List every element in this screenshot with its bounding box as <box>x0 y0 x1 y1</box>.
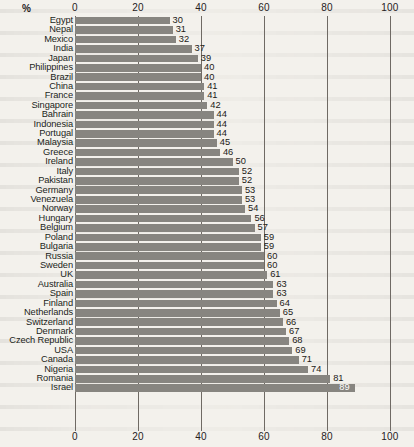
x-axis-tick-label: 20 <box>132 431 144 442</box>
x-axis-tick-label: 40 <box>195 2 207 13</box>
x-axis-bottom: 020406080100 <box>0 431 414 445</box>
bar <box>75 186 242 194</box>
bar <box>75 271 267 279</box>
bar-series: Egypt30Nepal31Mexico32India37Japan39Phil… <box>0 16 414 431</box>
bar <box>75 366 308 374</box>
bar <box>75 375 330 383</box>
bar <box>75 26 173 34</box>
bar <box>75 224 255 232</box>
x-axis-tick-label: 100 <box>381 2 398 13</box>
bar <box>75 73 201 81</box>
bar <box>75 121 214 129</box>
bar <box>75 130 214 138</box>
bar <box>75 111 214 119</box>
bar-value-label: 46 <box>223 147 233 157</box>
x-axis-tick-label: 80 <box>321 431 333 442</box>
bar <box>75 205 245 213</box>
bar <box>75 36 176 44</box>
x-axis-tick-label: 40 <box>195 431 207 442</box>
bar <box>75 83 204 91</box>
bar <box>75 328 286 336</box>
plot-area: Egypt30Nepal31Mexico32India37Japan39Phil… <box>0 16 414 431</box>
bar <box>75 309 280 317</box>
bar <box>75 318 283 326</box>
bar <box>75 158 233 166</box>
bar <box>75 102 207 110</box>
bar <box>75 92 204 100</box>
bar-category-label: Israel <box>51 382 73 392</box>
bar <box>75 347 292 355</box>
bar <box>75 64 201 72</box>
x-axis-tick-label: 80 <box>321 2 333 13</box>
x-axis-tick-label: 20 <box>132 2 144 13</box>
bar-value-label: 32 <box>179 34 189 44</box>
bar <box>75 384 355 392</box>
bar <box>75 262 264 270</box>
bar <box>75 55 198 63</box>
bar-value-label: 89 <box>339 382 349 392</box>
x-axis-tick-label: 100 <box>381 431 398 442</box>
bar-chart: % 020406080100 Egypt30Nepal31Mexico32Ind… <box>0 0 414 447</box>
x-axis-tick-label: 0 <box>72 431 78 442</box>
bar <box>75 196 242 204</box>
bar <box>75 356 299 364</box>
bar <box>75 300 277 308</box>
bar-value-label: 74 <box>311 364 321 374</box>
bar <box>75 234 261 242</box>
bar <box>75 149 220 157</box>
bar <box>75 45 192 53</box>
bar <box>75 168 239 176</box>
bar <box>75 281 273 289</box>
bar <box>75 139 217 147</box>
bar <box>75 177 239 185</box>
bar-row: Israel89 <box>0 383 414 392</box>
x-axis-top: 020406080100 <box>0 2 414 16</box>
bar <box>75 243 261 251</box>
bar <box>75 215 251 223</box>
x-axis-tick-label: 0 <box>72 2 78 13</box>
x-axis-tick-label: 60 <box>258 431 270 442</box>
x-axis-tick-label: 60 <box>258 2 270 13</box>
bar <box>75 337 289 345</box>
bar <box>75 17 170 25</box>
bar <box>75 252 264 260</box>
bar <box>75 290 273 298</box>
